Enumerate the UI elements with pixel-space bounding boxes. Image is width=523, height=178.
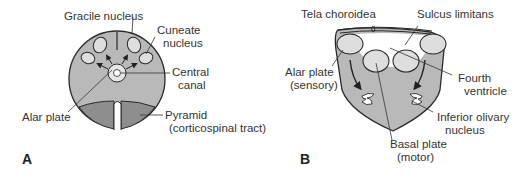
label-fourth-ventricle-line2: ventricle: [464, 85, 507, 98]
label-pyramid-line2: (corticospinal tract): [169, 122, 266, 135]
label-alar-plate: Alar plate: [22, 111, 71, 124]
label-central-canal-line2: canal: [178, 79, 206, 92]
label-central-canal-line1: Central: [172, 66, 209, 79]
label-alar-plate-sensory-line1: Alar plate: [285, 66, 334, 79]
embryonic-medulla: [332, 26, 452, 140]
label-pyramid-line1: Pyramid: [165, 109, 207, 122]
medulla-section: [68, 17, 170, 130]
label-cuneate-nucleus-line2: nucleus: [163, 37, 203, 50]
label-cuneate-nucleus-line1: Cuneate: [157, 24, 200, 37]
label-tela-choroidea: Tela choroidea: [301, 8, 376, 21]
panel-letter-a: A: [22, 151, 32, 167]
label-basal-plate-line1: Basal plate: [390, 138, 447, 151]
label-fourth-ventricle-line1: Fourth: [458, 72, 491, 85]
diagram-canvas: [0, 0, 523, 178]
panel-letter-b: B: [300, 151, 310, 167]
label-inferior-olivary-line2: nucleus: [445, 124, 485, 137]
label-gracile-nucleus: Gracile nucleus: [64, 10, 143, 23]
label-basal-plate-line2: (motor): [397, 151, 434, 164]
label-sulcus-limitans: Sulcus limitans: [417, 8, 494, 21]
label-alar-plate-sensory-line2: (sensory): [290, 79, 338, 92]
label-inferior-olivary-line1: Inferior olivary: [437, 111, 509, 124]
